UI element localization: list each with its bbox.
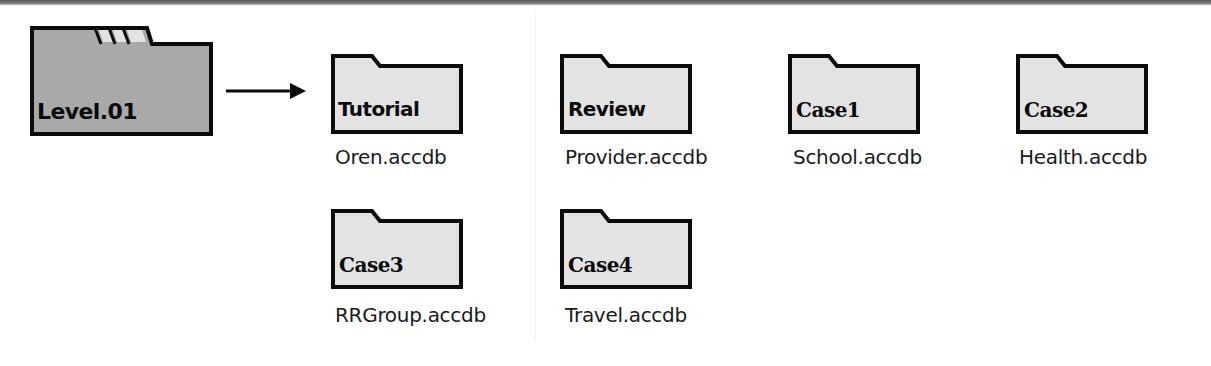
folder-icon: [559, 208, 694, 291]
arrow-right-icon: [226, 82, 308, 100]
filename: Health.accdb: [1019, 145, 1147, 169]
subfolder-case4: Case4: [559, 208, 694, 291]
filename: Provider.accdb: [565, 145, 707, 169]
subfolder-case3: Case3: [330, 208, 465, 291]
top-rule: [0, 0, 1211, 5]
subfolder-review: Review: [559, 53, 694, 136]
subfolder-case2: Case2: [1015, 53, 1150, 136]
subfolder-tutorial: Tutorial: [330, 53, 465, 136]
filename: School.accdb: [793, 145, 922, 169]
folder-label: Case3: [339, 253, 403, 277]
folder-icon: [330, 53, 465, 136]
subfolder-case1: Case1: [787, 53, 922, 136]
filename: Travel.accdb: [565, 303, 687, 327]
folder-label: Case2: [1024, 98, 1088, 122]
root-folder-level01: Level.01: [29, 25, 215, 137]
connector-arrow: [226, 82, 308, 104]
folder-label: Case1: [796, 98, 860, 122]
folder-label: Review: [568, 97, 645, 121]
folder-label: Case4: [568, 253, 632, 277]
folder-icon: [787, 53, 922, 136]
folder-icon: [330, 208, 465, 291]
folder-icon: [559, 53, 694, 136]
folder-icon: [1015, 53, 1150, 136]
divider: [535, 10, 536, 340]
folder-label: Level.01: [37, 99, 137, 124]
folder-label: Tutorial: [338, 97, 419, 121]
filename: RRGroup.accdb: [335, 303, 486, 327]
filename: Oren.accdb: [335, 145, 447, 169]
